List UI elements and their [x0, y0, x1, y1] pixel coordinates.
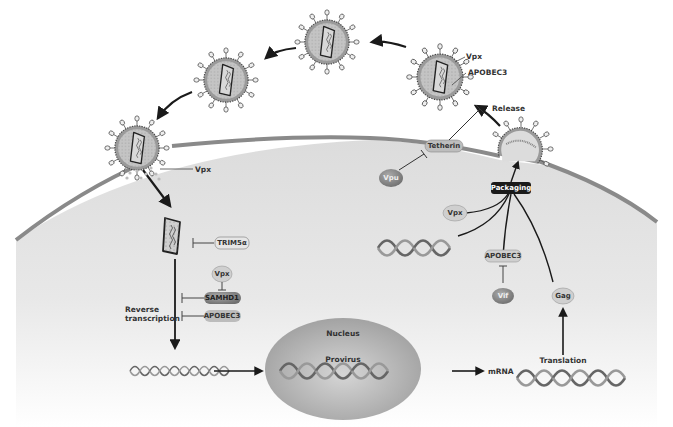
vpx-entry-label: Vpx	[195, 165, 211, 174]
apobec3-packaging-pill: APOBEC3	[485, 250, 522, 262]
capsid-icon	[163, 218, 180, 254]
virion-top-center	[295, 10, 359, 74]
vif-pill: Vif	[492, 288, 514, 304]
virion-top-left	[194, 48, 258, 112]
samhd1-pill: SAMHD1	[204, 292, 241, 304]
vpx-samhd1-pill: Vpx	[212, 266, 232, 282]
tetherin-pill: Tetherin	[425, 140, 463, 152]
apobec3-virion-label: APOBEC3	[468, 68, 507, 77]
nucleus-label: Nucleus	[326, 329, 360, 338]
svg-text:Tetherin: Tetherin	[428, 142, 461, 150]
vpu-pill: Vpu	[379, 169, 403, 187]
svg-text:Gag: Gag	[555, 292, 570, 300]
trim5a-pill: TRIM5α	[215, 237, 249, 249]
virion-released-top-right	[407, 44, 474, 111]
reverse-transcription-label-2: transcription	[125, 314, 180, 323]
hiv-lifecycle-diagram: Nucleus Provirus Vpx APOBEC3 Release	[0, 0, 673, 427]
svg-text:TRIM5α: TRIM5α	[217, 239, 247, 247]
translation-label: Translation	[539, 356, 586, 365]
tetherin-inhibits-release	[449, 105, 484, 140]
nucleus: Nucleus Provirus	[265, 318, 421, 420]
apobec3-rt-pill: APOBEC3	[204, 310, 241, 322]
gag-pill: Gag	[552, 288, 574, 304]
svg-text:Vpx: Vpx	[215, 270, 230, 278]
svg-text:Vpu: Vpu	[383, 174, 398, 182]
svg-text:Vif: Vif	[498, 292, 510, 300]
packaging-label: Packaging	[491, 182, 532, 194]
vpx-packaging-pill: Vpx	[443, 205, 467, 221]
release-label: Release	[492, 104, 525, 113]
svg-text:Vpx: Vpx	[448, 209, 463, 217]
svg-text:Packaging: Packaging	[491, 184, 532, 192]
reverse-transcription-label-1: Reverse	[125, 305, 159, 314]
svg-text:APOBEC3: APOBEC3	[485, 252, 522, 260]
vpx-virion-label: Vpx	[466, 52, 482, 61]
mrna-label: mRNA	[488, 367, 514, 376]
budding-virion	[492, 117, 553, 167]
svg-text:SAMHD1: SAMHD1	[205, 294, 239, 302]
svg-text:APOBEC3: APOBEC3	[204, 312, 241, 320]
